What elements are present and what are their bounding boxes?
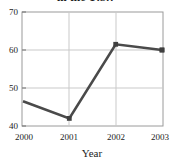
chart-plot-area: 70 60 50 40 2000 2001 2002 2003 Year: [0, 0, 172, 163]
data-point-2001: [113, 42, 118, 47]
data-point-2000: [67, 116, 72, 121]
x-tick-label-2001: 2001: [60, 132, 78, 142]
y-tick-label-50: 50: [9, 83, 19, 93]
y-tick-label-70: 70: [9, 7, 19, 17]
x-tick-label-2000: 2000: [15, 132, 34, 142]
data-point-2003: [160, 48, 165, 53]
x-tick-label-2003: 2003: [151, 132, 170, 142]
line-chart-figure: in the U.S.? 70 60 50 40 2000 2001 2002: [0, 0, 172, 163]
x-tick-label-2002: 2002: [107, 132, 125, 142]
y-tick-label-60: 60: [9, 45, 19, 55]
y-tick-label-40: 40: [9, 121, 19, 131]
x-axis-title: Year: [82, 147, 103, 159]
